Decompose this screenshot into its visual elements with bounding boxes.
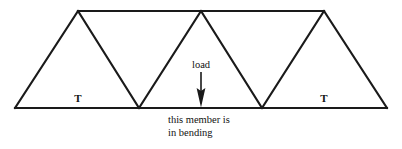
diagonal-member-2 — [78, 11, 139, 108]
diagonal-member-6 — [324, 11, 387, 108]
load-label: load — [192, 60, 210, 71]
diagonal-member-5 — [262, 11, 324, 108]
diagonal-member-1 — [15, 11, 78, 108]
tension-label-right: T — [320, 93, 328, 104]
bending-caption-line-1: this member is — [168, 113, 230, 126]
bending-caption-line-2: in bending — [168, 126, 230, 139]
tension-label-left: T — [74, 93, 82, 104]
truss-diagram-figure: T T load this member is in bending — [0, 0, 402, 149]
diagonal-member-4 — [201, 11, 262, 108]
bending-caption: this member is in bending — [168, 113, 230, 139]
